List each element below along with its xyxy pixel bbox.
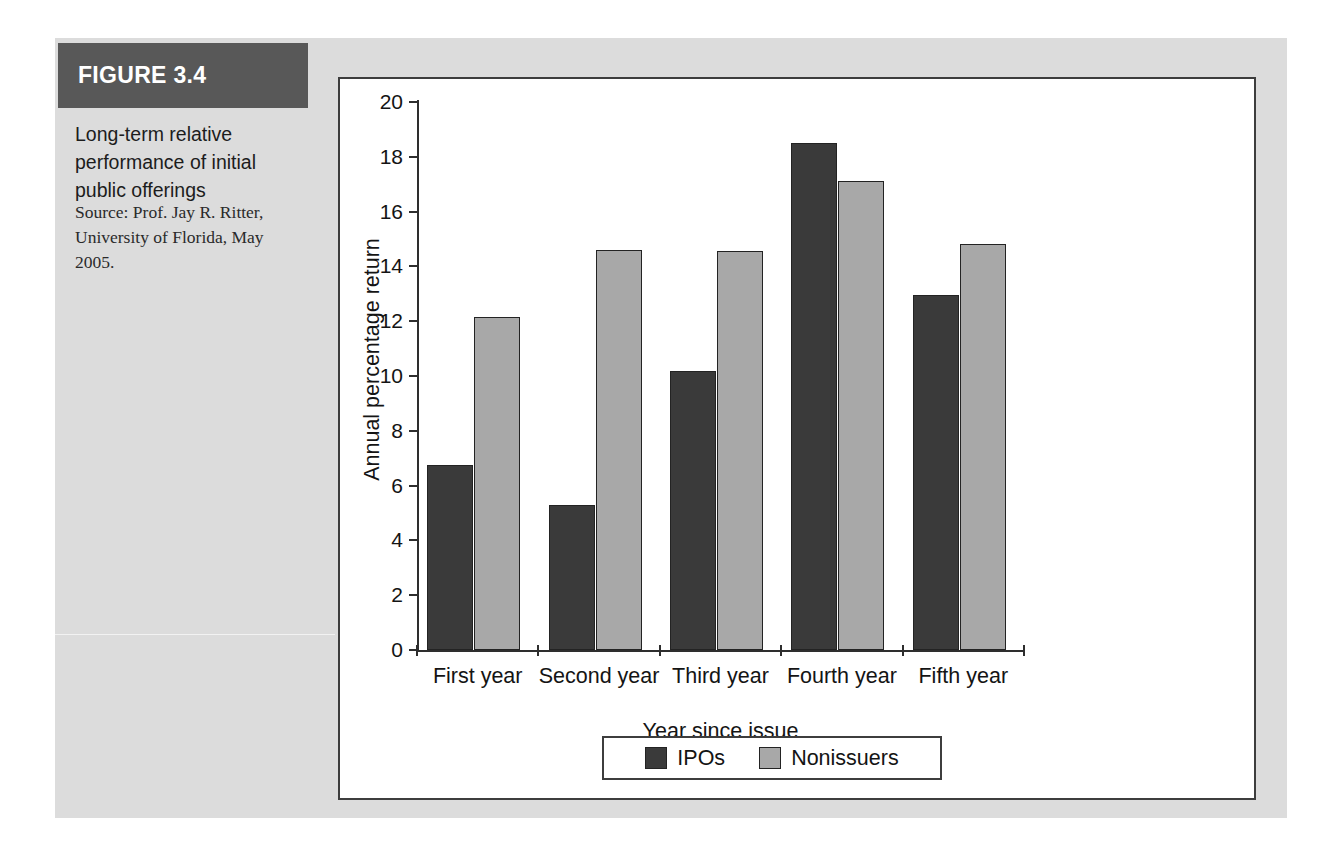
x-axis-tick: [659, 645, 661, 656]
figure-number-label: FIGURE 3.4: [78, 62, 206, 89]
y-axis-tick: [409, 375, 419, 377]
x-axis-tick: [902, 645, 904, 656]
y-axis-tick: [409, 156, 419, 158]
plot-area: Annual percentage return Year since issu…: [340, 79, 1254, 798]
legend-item-ipos[interactable]: IPOs: [645, 746, 725, 771]
y-axis-tick: [409, 594, 419, 596]
y-axis-tick: [409, 101, 419, 103]
legend-label: Nonissuers: [791, 746, 899, 771]
chart-container: Annual percentage return Year since issu…: [338, 77, 1256, 800]
y-axis-tick-label: 8: [351, 420, 403, 441]
chart-legend: IPOsNonissuers: [602, 736, 942, 780]
y-axis-tick: [409, 320, 419, 322]
x-axis-tick: [416, 645, 418, 656]
legend-swatch-icon: [645, 747, 667, 769]
y-axis-tick-label: 20: [351, 91, 403, 112]
x-axis-group-label: Second year: [538, 664, 659, 689]
bar-nonissuers-1: [474, 317, 520, 650]
bar-nonissuers-3: [717, 251, 763, 650]
y-axis-tick: [409, 265, 419, 267]
x-axis-tick: [1023, 645, 1025, 656]
bar-nonissuers-5: [960, 244, 1006, 650]
legend-label: IPOs: [677, 746, 725, 771]
y-axis-tick-label: 10: [351, 365, 403, 386]
x-axis-tick: [537, 645, 539, 656]
legend-item-nonissuers[interactable]: Nonissuers: [759, 746, 899, 771]
x-axis-tick: [780, 645, 782, 656]
x-axis-group-label: Fifth year: [903, 664, 1024, 689]
bar-nonissuers-4: [838, 181, 884, 650]
bar-nonissuers-2: [596, 250, 642, 650]
x-axis-group-label: Fourth year: [781, 664, 902, 689]
y-axis-tick-label: 4: [351, 529, 403, 550]
legend-swatch-icon: [759, 747, 781, 769]
y-axis-tick: [409, 485, 419, 487]
y-axis-tick-label: 6: [351, 475, 403, 496]
figure-source-text: Source: Prof. Jay R. Ritter, University …: [75, 200, 300, 275]
panel-divider-line: [55, 634, 335, 635]
x-axis-group-label: Third year: [660, 664, 781, 689]
figure-caption-text: Long-term relative performance of initia…: [75, 120, 290, 204]
bar-ipos-2: [549, 505, 595, 650]
y-axis-tick: [409, 211, 419, 213]
bar-ipos-4: [791, 143, 837, 650]
y-axis-tick-label: 16: [351, 201, 403, 222]
figure-number-banner: FIGURE 3.4: [58, 43, 308, 108]
bar-ipos-1: [427, 465, 473, 650]
bar-ipos-5: [913, 295, 959, 650]
y-axis-tick-label: 0: [351, 639, 403, 660]
y-axis-tick-label: 12: [351, 310, 403, 331]
bar-ipos-3: [670, 371, 716, 650]
x-axis-group-label: First year: [417, 664, 538, 689]
y-axis-tick-label: 18: [351, 146, 403, 167]
y-axis-tick: [409, 539, 419, 541]
y-axis-tick: [409, 430, 419, 432]
x-axis-line: [417, 650, 1024, 652]
y-axis-tick-label: 14: [351, 255, 403, 276]
y-axis-tick-label: 2: [351, 584, 403, 605]
